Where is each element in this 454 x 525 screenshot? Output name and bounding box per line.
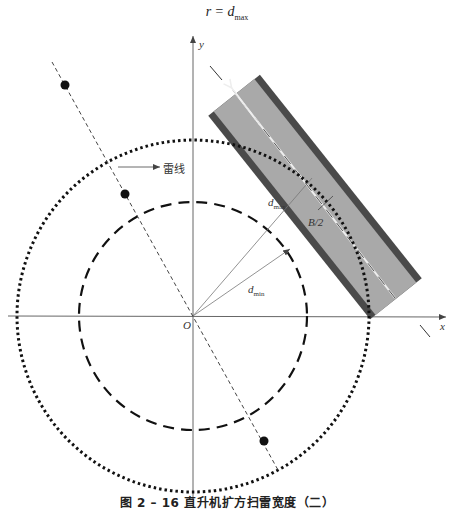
- d-max-label: dmax: [268, 196, 286, 211]
- d-min-sub: min: [254, 290, 265, 298]
- d-max-sub: max: [274, 203, 286, 211]
- sweep-path: [231, 87, 395, 298]
- diagram-canvas: [0, 0, 454, 525]
- figure-caption: 图 2 – 16 直升机扩方扫雷宽度（二）: [0, 493, 454, 510]
- y-axis-label: y: [199, 38, 204, 50]
- mine-line-label: 雷线: [163, 160, 185, 176]
- d-min-radius: [193, 249, 290, 316]
- half-width-label: B/2: [308, 216, 323, 228]
- mine-icon: [61, 81, 70, 90]
- x-axis: [8, 316, 446, 317]
- mine-icon: [121, 190, 130, 199]
- x-axis-label: x: [440, 320, 445, 332]
- band-axis-extension: [420, 325, 430, 337]
- origin-label: O: [183, 319, 191, 331]
- figure: r = dmax: [0, 0, 454, 525]
- band-axis-extension: [210, 66, 222, 80]
- sweep-band: [208, 75, 422, 320]
- mine-icon: [260, 437, 269, 446]
- d-min-label: dmin: [248, 283, 264, 298]
